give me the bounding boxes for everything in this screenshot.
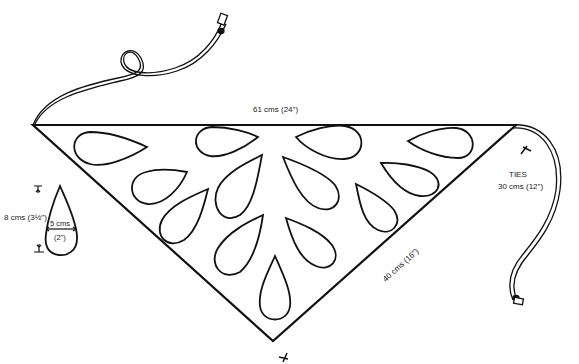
top-edge-label: 61 cms (24") [253,105,298,114]
teardrop-12 [286,218,336,268]
teardrop-8 [381,163,439,196]
teardrop-7 [283,157,339,209]
right-tie [510,125,561,305]
teardrop-11 [215,215,263,275]
teardrop-appliques [74,126,473,320]
teardrop-4 [408,128,473,158]
ties-length-label: 30 cms (12") [498,182,543,191]
teardrop-13 [260,256,291,320]
teardrop-3 [296,126,361,159]
left-tie [33,13,227,125]
teardrop-width-in-label: (2") [54,233,66,242]
teardrop-2 [196,127,258,156]
teardrop-1 [74,132,147,165]
teardrop-height-label: 8 cms (3½") [4,213,47,222]
teardrop-6 [215,155,262,218]
ties-title-label: TIES [509,170,527,179]
teardrop-width-cm-label: 5 cms [50,219,70,228]
kerchief-pattern-diagram [0,0,579,364]
teardrop-9 [356,184,397,232]
teardrop-5 [132,170,187,204]
